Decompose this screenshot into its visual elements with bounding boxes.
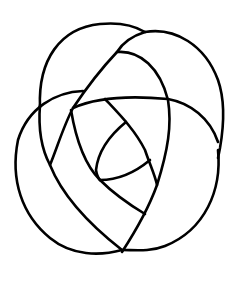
knot-strand-inner-left <box>71 110 145 214</box>
knot-strand-inner-lens-bottom <box>100 160 150 180</box>
knot-strand-outer-top-left <box>40 23 145 107</box>
knot-strand-inner-top-arc <box>117 52 170 252</box>
knot-strand-inner-lens-top <box>96 122 126 180</box>
knot-diagram <box>0 0 241 282</box>
knot-strand-outer-top-right <box>145 31 223 158</box>
knot-strand-left-inner <box>39 105 122 250</box>
knot-strand-middle-arc <box>73 97 218 142</box>
knot-strand-outer-right-bottom <box>122 150 219 250</box>
